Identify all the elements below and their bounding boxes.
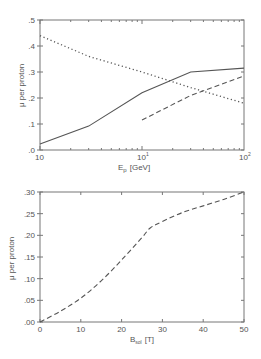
top-y-axis: .0.1.2.3.4.5 <box>28 16 244 155</box>
x-tick-label: 102 <box>239 151 251 162</box>
y-tick-label: .4 <box>28 42 35 51</box>
top-plot-frame <box>40 20 244 150</box>
top-y-axis-label: μ per proton <box>17 64 26 107</box>
bottom-chart: 01020304050 .00.05.10.15.20.25.30 Bsol[T… <box>7 188 249 345</box>
bottom-y-axis-label: μ per proton <box>7 237 16 280</box>
y-tick-label: .00 <box>24 318 36 327</box>
x-tick-label: 20 <box>117 325 126 334</box>
x-tick-label: 101 <box>137 151 149 162</box>
x-tick-label: 40 <box>199 325 208 334</box>
bottom-series <box>40 192 244 322</box>
y-tick-label: .25 <box>24 210 36 219</box>
series-solid-line <box>40 68 244 144</box>
y-tick-label: .3 <box>28 68 35 77</box>
bottom-x-axis-label: Bsol[T] <box>130 335 154 345</box>
bottom-x-axis: 01020304050 <box>38 192 249 334</box>
series-dashed-line <box>142 76 244 120</box>
bottom-plot-frame <box>40 192 244 322</box>
top-series <box>40 36 244 144</box>
y-tick-label: .5 <box>28 16 35 25</box>
y-tick-label: .10 <box>24 275 36 284</box>
y-tick-label: .20 <box>24 231 36 240</box>
x-tick-label: 10 <box>76 325 85 334</box>
series-dashed-line <box>40 192 244 322</box>
y-tick-label: .15 <box>24 253 36 262</box>
top-x-axis-label: Ep[GeV] <box>118 163 150 173</box>
top-chart: 10101102 .0.1.2.3.4.5 Ep[GeV] μ per prot… <box>17 16 251 173</box>
y-tick-label: .05 <box>24 296 36 305</box>
figure: 10101102 .0.1.2.3.4.5 Ep[GeV] μ per prot… <box>0 0 261 359</box>
y-tick-label: .2 <box>28 94 35 103</box>
y-tick-label: .1 <box>28 120 35 129</box>
x-tick-label: 0 <box>38 325 43 334</box>
y-tick-label: .30 <box>24 188 36 197</box>
x-tick-label: 10 <box>35 153 44 162</box>
y-tick-label: .0 <box>28 146 35 155</box>
top-x-axis: 10101102 <box>35 20 251 162</box>
x-tick-label: 30 <box>158 325 167 334</box>
x-tick-label: 50 <box>240 325 249 334</box>
bottom-y-axis: .00.05.10.15.20.25.30 <box>24 188 244 327</box>
